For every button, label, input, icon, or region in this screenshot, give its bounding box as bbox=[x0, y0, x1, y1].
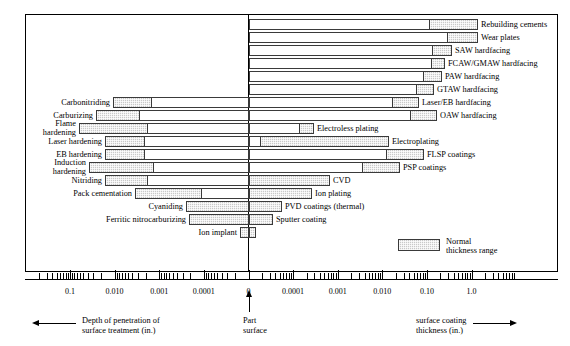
chart-row-rebuilding-cements: Rebuilding cements bbox=[0, 19, 570, 30]
x-axis-minor-tick bbox=[74, 273, 75, 279]
x-axis-tick-label: 0.10 bbox=[420, 287, 434, 296]
x-axis-minor-tick bbox=[372, 273, 373, 279]
row-label-right-gtaw-hardfacing: GTAW hardfacing bbox=[437, 85, 498, 94]
x-axis-minor-tick bbox=[101, 273, 102, 279]
chart-row-ion-plating: Pack cementationIon plating bbox=[0, 188, 570, 199]
x-axis-tick-label: 0.0001 bbox=[193, 287, 215, 296]
x-axis-minor-tick bbox=[307, 273, 308, 279]
right-pvd-coatings-thermal-normal-range-bar bbox=[249, 201, 282, 212]
x-axis-minor-tick bbox=[125, 273, 126, 279]
x-axis-minor-tick bbox=[365, 273, 366, 279]
x-axis-minor-tick bbox=[423, 273, 424, 279]
x-axis-minor-tick bbox=[336, 273, 337, 279]
x-axis-minor-tick bbox=[333, 273, 334, 279]
x-axis-minor-tick bbox=[458, 273, 459, 279]
x-axis-major-tick bbox=[382, 270, 383, 279]
x-axis-major-tick bbox=[204, 270, 205, 279]
right-paw-hardfacing-full-range-bar bbox=[249, 71, 442, 82]
x-axis-minor-tick bbox=[485, 273, 486, 279]
x-axis-minor-tick bbox=[63, 273, 64, 279]
x-axis-minor-tick bbox=[291, 273, 292, 279]
x-axis-minor-tick bbox=[404, 273, 405, 279]
x-axis-tick-label: 0.001 bbox=[150, 287, 168, 296]
chart-row-psp-coatings: InductionhardeningPSP coatings bbox=[0, 162, 570, 173]
chart-row-sputter-coating: Ferritic nitrocarburizingSputter coating bbox=[0, 214, 570, 225]
right-saw-hardfacing-full-range-bar bbox=[249, 45, 452, 56]
x-axis-major-tick bbox=[115, 270, 116, 279]
x-axis-minor-tick bbox=[275, 273, 276, 279]
right-wear-plates-full-range-bar bbox=[249, 32, 478, 43]
x-axis-minor-tick bbox=[414, 273, 415, 279]
x-axis-minor-tick bbox=[138, 273, 139, 279]
x-axis-minor-tick bbox=[80, 273, 81, 279]
right-fcaw-gmaw-hardfacing-normal-range-bar bbox=[431, 58, 445, 69]
x-axis-minor-tick bbox=[173, 273, 174, 279]
chart-row-saw-hardfacing: SAW hardfacing bbox=[0, 45, 570, 56]
right-laser-eb-hardfacing-normal-range-bar bbox=[392, 97, 419, 108]
x-axis-minor-tick bbox=[72, 273, 73, 279]
x-axis-minor-tick bbox=[214, 273, 215, 279]
x-axis-minor-tick bbox=[320, 273, 321, 279]
row-label-left-ion-implant: Ion implant bbox=[199, 228, 237, 237]
x-axis-minor-tick bbox=[351, 273, 352, 279]
x-axis-minor-tick bbox=[117, 273, 118, 279]
x-axis-minor-tick bbox=[183, 273, 184, 279]
x-axis-minor-tick bbox=[177, 273, 178, 279]
x-axis-minor-tick bbox=[369, 273, 370, 279]
x-axis-minor-tick bbox=[448, 273, 449, 279]
x-axis-major-tick bbox=[472, 270, 473, 279]
right-axis-caption: surface coating thickness (in.) bbox=[416, 316, 466, 336]
left-cvd-normal-range-bar bbox=[105, 175, 148, 186]
x-axis-minor-tick bbox=[462, 273, 463, 279]
chart-row-laser-eb-hardfacing: CarbonitridingLaser/EB hardfacing bbox=[0, 97, 570, 108]
x-axis-minor-tick bbox=[270, 273, 271, 279]
x-axis-minor-tick bbox=[60, 273, 61, 279]
x-axis-minor-tick bbox=[331, 273, 332, 279]
x-axis-tick-label: 0.010 bbox=[373, 287, 391, 296]
x-axis-line bbox=[25, 279, 558, 280]
right-axis-caption-line2: thickness (in.) bbox=[416, 326, 466, 336]
right-direction-arrow-icon bbox=[473, 323, 511, 324]
part-surface-caption-line2: surface bbox=[243, 326, 267, 336]
legend-swatch-normal-thickness bbox=[398, 239, 440, 251]
part-surface-arrow-icon bbox=[249, 296, 250, 312]
x-axis-minor-tick bbox=[375, 273, 376, 279]
row-label-left-cvd-line1: Nitriding bbox=[72, 176, 102, 185]
x-axis-minor-tick bbox=[169, 273, 170, 279]
x-axis-tick-label: 1.0 bbox=[467, 287, 477, 296]
x-axis-minor-tick bbox=[166, 273, 167, 279]
x-axis-minor-tick bbox=[208, 273, 209, 279]
x-axis-minor-tick bbox=[93, 273, 94, 279]
chart-row-wear-plates: Wear plates bbox=[0, 32, 570, 43]
right-gtaw-hardfacing-full-range-bar bbox=[249, 84, 434, 95]
x-axis-major-tick bbox=[249, 270, 250, 279]
chart-row-paw-hardfacing: PAW hardfacing bbox=[0, 71, 570, 82]
x-axis-minor-tick bbox=[57, 273, 58, 279]
left-flsp-coatings-normal-range-bar bbox=[105, 149, 145, 160]
right-ion-plating-normal-range-bar bbox=[249, 188, 312, 199]
row-label-left-electroplating-line1: Laser hardening bbox=[48, 137, 102, 146]
left-electroplating-normal-range-bar bbox=[105, 136, 145, 147]
x-axis-minor-tick bbox=[283, 273, 284, 279]
x-axis-minor-tick bbox=[88, 273, 89, 279]
right-electroplating-normal-range-bar bbox=[260, 136, 389, 147]
x-axis-major-tick bbox=[427, 270, 428, 279]
x-axis-minor-tick bbox=[440, 273, 441, 279]
right-rebuilding-cements-normal-range-bar bbox=[429, 19, 478, 30]
x-axis-minor-tick bbox=[211, 273, 212, 279]
x-axis-minor-tick bbox=[396, 273, 397, 279]
chart-row-pvd-coatings-thermal: CyanidingPVD coatings (thermal) bbox=[0, 201, 570, 212]
row-label-right-rebuilding-cements: Rebuilding cements bbox=[481, 20, 547, 29]
x-axis-tick-label: 0.001 bbox=[329, 287, 347, 296]
x-axis-minor-tick bbox=[146, 273, 147, 279]
x-axis-minor-tick bbox=[164, 273, 165, 279]
left-ion-plating-normal-range-bar bbox=[135, 188, 202, 199]
x-axis-tick-label: 0.010 bbox=[106, 287, 124, 296]
left-direction-arrow-icon bbox=[38, 323, 76, 324]
right-flsp-coatings-normal-range-bar bbox=[386, 149, 424, 160]
row-label-right-psp-coatings: PSP coatings bbox=[403, 163, 446, 172]
x-axis-minor-tick bbox=[235, 273, 236, 279]
chart-row-electroplating: Laser hardeningElectroplating bbox=[0, 136, 570, 147]
right-saw-hardfacing-normal-range-bar bbox=[432, 45, 452, 56]
x-axis-tick-label: 0.0001 bbox=[282, 287, 304, 296]
